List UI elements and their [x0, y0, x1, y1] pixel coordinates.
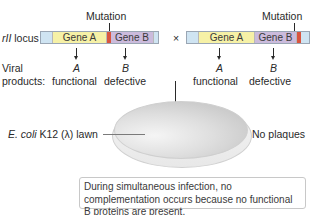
- left-arrow-b-head: [123, 56, 127, 60]
- locus-label: rII locus: [2, 32, 39, 44]
- right-gene-b-label: Gene B: [259, 32, 293, 43]
- explanation-note: During simultaneous infection, no comple…: [79, 177, 306, 209]
- left-mutation-pointer: [109, 23, 110, 31]
- right-locus-bar: Gene A Gene B: [186, 31, 310, 44]
- left-product-a-status: functional: [52, 75, 97, 87]
- right-product-b-status: defective: [249, 75, 291, 87]
- left-locus-bar: Gene A Gene B: [40, 31, 159, 44]
- locus-label-italic: rII: [2, 32, 11, 44]
- lawn-label-rest: K12 (λ) lawn: [37, 128, 98, 140]
- left-flank-end: [154, 32, 158, 43]
- petri-dish-lawn: [114, 101, 248, 159]
- lawn-label-italic: E. coli: [8, 128, 37, 140]
- right-mutation-pointer: [294, 23, 295, 31]
- cross-symbol: ×: [173, 32, 179, 44]
- left-arrow-a-head: [74, 56, 78, 60]
- result-label: No plaques: [252, 128, 305, 140]
- left-gene-b: Gene B: [111, 32, 154, 43]
- left-product-b-status: defective: [104, 75, 146, 87]
- left-flank-start: [41, 32, 52, 43]
- left-product-b-letter: B: [122, 62, 129, 74]
- right-product-a-letter: A: [216, 62, 223, 74]
- products-label: products:: [2, 75, 45, 87]
- right-gene-a-label: Gene A: [210, 32, 243, 43]
- locus-label-rest: locus: [11, 32, 38, 44]
- left-product-a-letter: A: [73, 62, 80, 74]
- right-flank-start: [187, 32, 198, 43]
- right-flank-end: [301, 32, 309, 43]
- right-mutation-label: Mutation: [262, 10, 302, 22]
- right-product-a-status: functional: [193, 75, 238, 87]
- right-gene-a: Gene A: [198, 32, 255, 43]
- lawn-label: E. coli K12 (λ) lawn: [8, 128, 98, 140]
- viral-label: Viral: [2, 62, 23, 74]
- right-arrow-a-head: [217, 56, 221, 60]
- left-mutation-label: Mutation: [86, 10, 126, 22]
- left-gene-b-label: Gene B: [115, 32, 149, 43]
- right-arrow-b-head: [271, 56, 275, 60]
- right-product-b-letter: B: [270, 62, 277, 74]
- left-gene-a-label: Gene A: [63, 32, 96, 43]
- left-gene-a: Gene A: [52, 32, 107, 43]
- right-gene-b: Gene B: [255, 32, 297, 43]
- lawn-leader-line: [103, 134, 145, 135]
